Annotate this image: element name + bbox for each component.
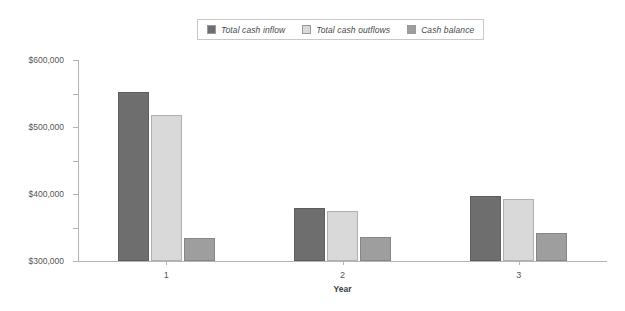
legend-item-label: Cash balance bbox=[421, 25, 474, 35]
bar bbox=[360, 237, 391, 261]
legend-item-label: Total cash outflows bbox=[316, 25, 390, 35]
x-axis-tick bbox=[519, 261, 520, 265]
bar bbox=[151, 115, 182, 261]
y-axis-tick: $300,000 bbox=[73, 161, 78, 162]
x-axis-tick-label: 1 bbox=[164, 270, 169, 280]
bar bbox=[184, 238, 215, 261]
y-axis-tick: $200,000 bbox=[73, 194, 78, 195]
cash-flow-bar-chart: Total cash inflow Total cash outflows Ca… bbox=[0, 0, 625, 311]
bar bbox=[327, 211, 358, 261]
y-axis-tick: $500,000 bbox=[73, 94, 78, 95]
x-axis-title: Year bbox=[334, 284, 352, 294]
bar bbox=[470, 196, 501, 261]
bar-group bbox=[294, 60, 391, 261]
x-axis-tick-label: 2 bbox=[340, 270, 345, 280]
bar-group bbox=[470, 60, 567, 261]
legend-item-total-cash-outflows: Total cash outflows bbox=[302, 25, 390, 35]
legend-item-label: Total cash inflow bbox=[221, 25, 285, 35]
y-axis-tick: $600,000 bbox=[73, 60, 78, 61]
bar bbox=[536, 233, 567, 261]
y-axis-tick-label: $600,000 bbox=[29, 55, 64, 65]
legend-swatch-icon bbox=[407, 25, 416, 34]
bar-group bbox=[118, 60, 215, 261]
x-axis-tick bbox=[166, 261, 167, 265]
bar bbox=[118, 92, 149, 261]
bar bbox=[503, 199, 534, 261]
y-axis-tick-label: $400,000 bbox=[29, 189, 64, 199]
y-axis-tick-label: $300,000 bbox=[29, 256, 64, 266]
x-axis-tick bbox=[343, 261, 344, 265]
plot-area: $0$100,000$200,000$300,000$400,000$500,0… bbox=[78, 60, 607, 261]
x-axis-tick-label: 3 bbox=[516, 270, 521, 280]
y-axis-tick: $400,000 bbox=[73, 127, 78, 128]
y-axis-tick-label: $500,000 bbox=[29, 122, 64, 132]
bar bbox=[294, 208, 325, 261]
legend-item-cash-balance: Cash balance bbox=[407, 25, 474, 35]
chart-legend: Total cash inflow Total cash outflows Ca… bbox=[197, 19, 484, 40]
legend-item-total-cash-inflow: Total cash inflow bbox=[207, 25, 285, 35]
legend-swatch-icon bbox=[302, 25, 311, 34]
y-axis-tick: $100,000 bbox=[73, 228, 78, 229]
y-axis-line bbox=[78, 60, 79, 261]
y-axis-tick: $0 bbox=[73, 261, 78, 262]
legend-swatch-icon bbox=[207, 25, 216, 34]
